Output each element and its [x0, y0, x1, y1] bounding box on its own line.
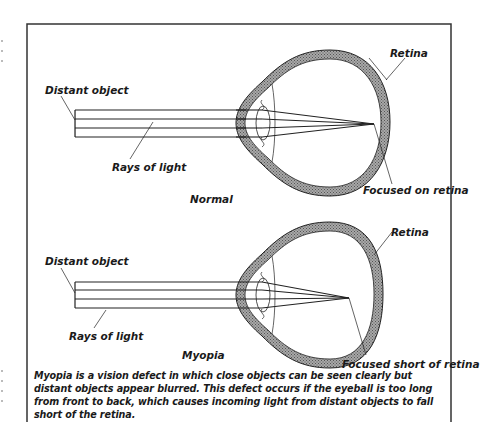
normal-eye: [61, 50, 405, 196]
normal-distant-object-label: Distant object: [45, 84, 129, 96]
myopia-eye: [61, 222, 392, 368]
myopia-panel-title: Myopia: [182, 349, 225, 361]
page-edge-marks: [1, 370, 3, 410]
normal-panel-title: Normal: [190, 193, 233, 205]
myopia-distant-object-label: Distant object: [45, 255, 129, 267]
myopia-retina-label: Retina: [391, 226, 429, 238]
normal-focus-label: Focused on retina: [363, 184, 469, 196]
myopia-rays-label: Rays of light: [69, 330, 143, 342]
page-edge-marks: [1, 40, 3, 70]
normal-rays-label: Rays of light: [112, 161, 186, 173]
figure-caption: Myopia is a vision defect in which close…: [34, 369, 448, 421]
normal-retina-label: Retina: [390, 47, 428, 59]
